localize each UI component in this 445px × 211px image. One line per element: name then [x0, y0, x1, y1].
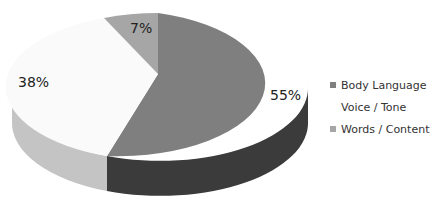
legend-swatch	[330, 104, 336, 110]
label-words-content: 7%	[130, 20, 152, 36]
legend-item-words-content: Words / Content	[330, 118, 429, 140]
label-voice-tone: 38%	[18, 74, 49, 90]
legend-swatch	[330, 82, 336, 88]
label-body-language: 55%	[270, 87, 301, 103]
legend-item-body-language: Body Language	[330, 74, 429, 96]
legend-label: Voice / Tone	[341, 101, 406, 114]
legend-swatch	[330, 126, 336, 132]
pie-chart: 55% 38% 7%	[0, 0, 320, 211]
legend-label: Body Language	[341, 79, 427, 92]
legend: Body Language Voice / Tone Words / Conte…	[330, 74, 429, 140]
legend-item-voice-tone: Voice / Tone	[330, 96, 429, 118]
legend-label: Words / Content	[341, 123, 429, 136]
